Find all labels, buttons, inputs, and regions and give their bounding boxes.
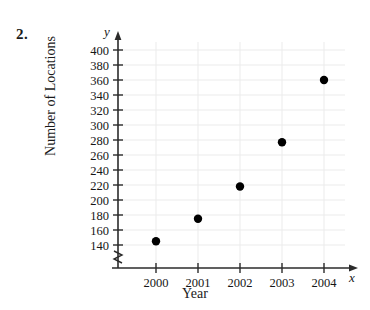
y-tick-label: 140	[90, 239, 109, 253]
data-point	[194, 215, 202, 223]
y-tick-label: 260	[90, 149, 109, 163]
data-point	[152, 237, 160, 245]
x-tick-label: 2002	[228, 276, 253, 290]
x-axis-variable-label: x	[348, 270, 355, 285]
horizontal-gridlines	[118, 50, 345, 245]
x-tick-label: 2000	[144, 276, 169, 290]
x-tick-label: 2004	[312, 276, 338, 290]
y-tick-label: 320	[90, 104, 109, 118]
axis-break-symbol	[114, 251, 122, 263]
x-tick-label: 2001	[186, 276, 211, 290]
y-axis-arrowhead	[115, 31, 122, 40]
y-tick-label: 160	[90, 224, 109, 238]
y-tick-label: 380	[90, 59, 109, 73]
scatter-plot-figure: 2. Number of Locations Year 140160180200…	[0, 0, 370, 310]
y-tick-label: 300	[90, 119, 109, 133]
x-tick-label: 2003	[270, 276, 295, 290]
data-point	[320, 76, 328, 84]
y-tick-label: 180	[90, 209, 109, 223]
y-axis-variable-label: y	[102, 24, 110, 39]
data-point	[236, 182, 244, 190]
y-tick-label: 240	[90, 164, 109, 178]
y-tick-label: 340	[90, 89, 109, 103]
x-axis-tick-labels: 20002001200220032004	[144, 276, 338, 290]
y-tick-label: 400	[90, 44, 109, 58]
y-tick-label: 220	[90, 179, 109, 193]
plot-canvas: 1401601802002202402602803003203403603804…	[0, 0, 370, 310]
y-tick-label: 280	[90, 134, 109, 148]
y-axis-tick-labels: 1401601802002202402602803003203403603804…	[90, 44, 109, 253]
y-tick-label: 200	[90, 194, 109, 208]
data-point	[278, 138, 286, 146]
y-tick-label: 360	[90, 74, 109, 88]
